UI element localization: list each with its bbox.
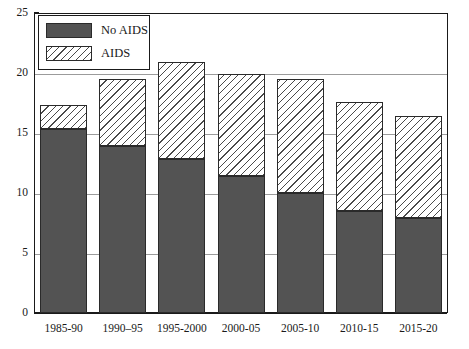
bar-group[interactable] xyxy=(395,13,442,313)
x-tick-label: 1990–95 xyxy=(93,322,152,334)
legend-swatch-aids xyxy=(46,46,92,61)
bar-segment-aids[interactable] xyxy=(218,74,265,176)
bar-segment-no-aids[interactable] xyxy=(336,211,383,313)
bar-segment-aids[interactable] xyxy=(158,62,205,159)
x-tick-label: 2000-05 xyxy=(211,322,270,334)
bar-group[interactable] xyxy=(218,13,265,313)
y-tick-label-10: 10 xyxy=(2,186,28,198)
bar-segment-aids[interactable] xyxy=(40,105,87,129)
bar-segment-aids[interactable] xyxy=(99,79,146,146)
x-tick-label: 2005-10 xyxy=(271,322,330,334)
bar-group[interactable] xyxy=(158,13,205,313)
x-tick-label: 2010-15 xyxy=(330,322,389,334)
y-tick-label-0: 0 xyxy=(2,306,28,318)
legend-swatch-no-aids xyxy=(46,23,92,38)
bar-segment-no-aids[interactable] xyxy=(158,159,205,313)
x-tick-label: 1985-90 xyxy=(34,322,93,334)
x-tick-label: 1995-2000 xyxy=(152,322,211,334)
bar-segment-aids[interactable] xyxy=(395,116,442,218)
y-tick-label-20: 20 xyxy=(2,66,28,78)
bar-segment-aids[interactable] xyxy=(277,79,324,193)
legend-item-aids: AIDS xyxy=(46,44,130,62)
stacked-bar-chart: 0510152025 1985-901990–951995-20002000-0… xyxy=(0,0,469,349)
bar-segment-no-aids[interactable] xyxy=(99,146,146,313)
x-tick-label: 2015-20 xyxy=(389,322,448,334)
bar-segment-no-aids[interactable] xyxy=(395,218,442,313)
bar-segment-no-aids[interactable] xyxy=(40,129,87,313)
y-tick-label-15: 15 xyxy=(2,126,28,138)
bar-segment-no-aids[interactable] xyxy=(218,176,265,313)
bar-segment-no-aids[interactable] xyxy=(277,193,324,313)
legend-label-aids: AIDS xyxy=(101,46,130,61)
y-tick-label-25: 25 xyxy=(2,6,28,18)
bar-group[interactable] xyxy=(277,13,324,313)
bar-group[interactable] xyxy=(336,13,383,313)
legend-label-no-aids: No AIDS xyxy=(101,23,148,38)
y-tick-label-5: 5 xyxy=(2,246,28,258)
legend-item-no-aids: No AIDS xyxy=(46,21,148,39)
bar-segment-aids[interactable] xyxy=(336,102,383,211)
chart-legend: No AIDS AIDS xyxy=(38,15,150,70)
